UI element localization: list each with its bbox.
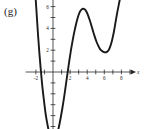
x-tick-label: 8: [120, 75, 123, 81]
x-tick-label: 4: [86, 75, 89, 81]
x-tick-label: -2: [34, 75, 39, 81]
y-tick-label: 2: [46, 47, 49, 53]
y-tick-label: 6: [46, 4, 49, 10]
tick-labels-layer: xy-22468642-6: [34, 0, 140, 129]
curve-layer: [35, 0, 120, 129]
graph-plot: xy-22468642-6: [0, 0, 148, 129]
x-tick-label: 2: [69, 75, 72, 81]
panel-label: (g): [4, 6, 17, 17]
x-axis-arrow: [131, 70, 137, 75]
curve-path: [35, 0, 120, 129]
figure-panel: (g) xy-22468642-6: [0, 0, 148, 129]
y-tick-label: 4: [46, 25, 49, 31]
x-axis-name: x: [136, 69, 140, 75]
x-tick-label: 6: [103, 75, 106, 81]
axes-layer: [26, 0, 136, 129]
